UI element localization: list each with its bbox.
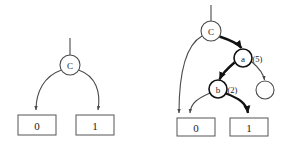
right-edge-c-to-a <box>220 37 242 49</box>
right-diagram: C a (5) b (2) 0 1 <box>177 5 274 136</box>
right-node-b-count: (2) <box>228 85 238 95</box>
right-cell-zero-label: 0 <box>193 122 199 134</box>
right-edge-b-to-one <box>226 94 248 114</box>
right-edge-a-to-b <box>220 63 235 80</box>
left-cell-zero-label: 0 <box>34 120 40 132</box>
left-cell-one-label: 1 <box>92 120 98 132</box>
right-node-b-label: b <box>216 85 221 95</box>
right-cell-one-label: 1 <box>246 122 252 134</box>
right-node-a-count: (5) <box>253 54 263 64</box>
left-edge-c-to-zero <box>36 70 62 110</box>
right-node-a-label: a <box>241 54 245 64</box>
diagram-svg: C 0 1 C a (5) <box>0 0 285 143</box>
figure-canvas: C 0 1 C a (5) <box>0 0 285 143</box>
left-edge-c-to-one <box>79 70 99 110</box>
right-edge-c-to-zero <box>179 36 202 113</box>
left-diagram: C 0 1 <box>18 38 114 135</box>
left-node-c-label: C <box>67 61 73 71</box>
right-node-empty-circle <box>256 81 274 99</box>
right-edge-a-to-empty <box>252 62 265 80</box>
right-edge-b-to-zero <box>190 93 210 113</box>
right-node-c-label: C <box>208 27 214 37</box>
